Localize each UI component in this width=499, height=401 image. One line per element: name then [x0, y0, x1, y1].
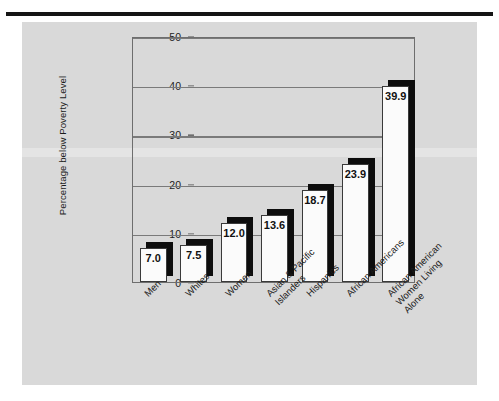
top-divider-rule [6, 12, 493, 16]
bar-value-label: 7.0 [141, 252, 166, 264]
bar-value-label: 7.5 [181, 249, 206, 261]
bar-value-label: 13.6 [262, 219, 287, 231]
gridline [133, 87, 414, 88]
bar-value-label: 18.7 [303, 194, 328, 206]
bar-value-label: 23.9 [343, 168, 368, 180]
gridline [133, 38, 414, 39]
plot-area: 7.07.512.013.618.723.939.9 [132, 37, 415, 283]
y-axis-title: Percentage below Poverty Level [57, 56, 68, 236]
bar-column: 7.0 [140, 241, 174, 282]
gridline [133, 136, 414, 137]
bar: 7.0 [140, 248, 167, 282]
chart-panel: Percentage below Poverty Level 010203040… [22, 22, 477, 385]
bar-value-label: 39.9 [383, 90, 408, 102]
bar-value-label: 12.0 [222, 227, 247, 239]
bar: 23.9 [342, 164, 369, 282]
